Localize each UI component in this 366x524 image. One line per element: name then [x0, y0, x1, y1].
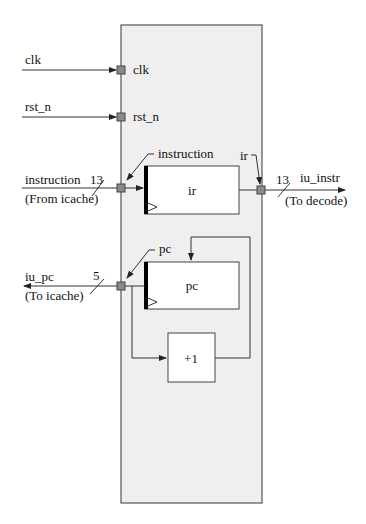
iu-instr-dest-label: (To decode): [285, 193, 347, 208]
iu-instr-port: [257, 186, 265, 194]
ir-port-label: ir: [240, 148, 249, 163]
block-diagram: clk clk rst_n rst_n instruction 13 (From…: [0, 0, 366, 524]
ir-clock-bar: [144, 166, 148, 214]
instruction-port: [117, 184, 125, 192]
rst-n-port-label: rst_n: [133, 109, 160, 124]
pc-register: pc: [144, 262, 239, 309]
iu-pc-dest-label: (To icache): [25, 288, 84, 303]
inc-label: +1: [184, 351, 198, 366]
iu-pc-signal-label: iu_pc: [25, 269, 54, 284]
iu-instr-signal-label: iu_instr: [300, 170, 340, 185]
ir-register: ir: [144, 166, 239, 214]
pc-port-label: pc: [159, 241, 172, 256]
instruction-source-label: (From icache): [25, 191, 98, 206]
iu-pc-width-label: 5: [93, 268, 100, 283]
iu-pc-port: [117, 282, 125, 290]
rst-n-signal-label: rst_n: [25, 99, 52, 114]
instruction-signal-label: instruction: [25, 172, 81, 187]
instruction-port-label: instruction: [158, 146, 214, 161]
iu-instr-width-label: 13: [276, 172, 289, 187]
clk-port: [117, 66, 125, 74]
rst-n-port: [117, 113, 125, 121]
pc-label: pc: [186, 278, 199, 293]
clk-signal-label: clk: [25, 52, 41, 67]
ir-label: ir: [188, 183, 197, 198]
incrementer: +1: [168, 333, 215, 382]
clk-port-label: clk: [133, 62, 149, 77]
